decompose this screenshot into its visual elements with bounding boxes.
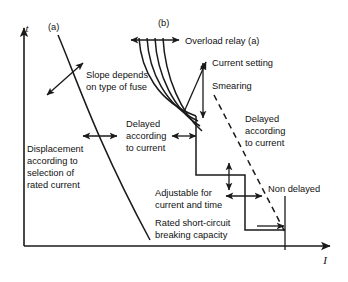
- delayed-right-line3: to current: [245, 138, 285, 148]
- overload-relay-label: Overload relay (a): [185, 36, 259, 46]
- rated-label-line2: breaking capacity: [155, 230, 228, 240]
- non-delayed-label: Non delayed: [268, 184, 320, 194]
- y-axis-label: t: [25, 22, 29, 34]
- region-label-fuse: (a): [48, 22, 59, 32]
- relay-curve-2: [147, 38, 198, 121]
- displacement-label-line1: Displacement: [27, 144, 84, 154]
- diagram-canvas: t I (a) (b) Slope depends on type of fus…: [0, 0, 348, 282]
- relay-curve-3: [155, 38, 200, 126]
- delayed-left-line2: according: [126, 131, 166, 141]
- x-axis-label: I: [322, 254, 328, 266]
- delayed-right-line2: according: [245, 126, 285, 136]
- overload-relay-band: [139, 38, 202, 131]
- displacement-label-line4: rated current: [27, 180, 80, 190]
- adjustable-label-line1: Adjustable for: [155, 188, 212, 198]
- delayed-left-line1: Delayed: [126, 119, 160, 129]
- adjustable-label-line2: current and time: [155, 200, 222, 210]
- slope-arrow: [47, 63, 83, 95]
- slope-label-line2: on type of fuse: [86, 82, 147, 92]
- region-label-breaker: (b): [158, 18, 169, 28]
- displacement-label-line2: according to: [27, 156, 78, 166]
- displacement-label-line3: selection of: [27, 168, 74, 178]
- slope-label-line1: Slope depends: [86, 70, 148, 80]
- delayed-right-line1: Delayed: [245, 114, 279, 124]
- smearing-label: Smearing: [212, 81, 252, 91]
- current-setting-label: Current setting: [212, 58, 273, 68]
- protection-characteristics-diagram: t I (a) (b) Slope depends on type of fus…: [0, 0, 348, 282]
- rated-label-line1: Rated short-circuit: [155, 218, 231, 228]
- delayed-left-line3: to current: [126, 143, 166, 153]
- axis-group: [24, 28, 330, 246]
